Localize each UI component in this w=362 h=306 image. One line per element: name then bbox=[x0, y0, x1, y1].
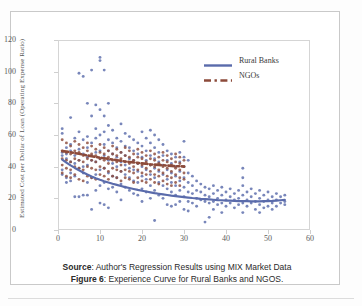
scatter-point bbox=[178, 179, 181, 182]
scatter-point bbox=[229, 195, 232, 198]
scatter-point bbox=[141, 179, 144, 182]
scatter-point bbox=[115, 165, 118, 168]
scatter-point bbox=[166, 203, 169, 206]
scatter-point bbox=[94, 137, 97, 140]
scatter-point bbox=[78, 159, 81, 162]
scatter-point bbox=[183, 156, 186, 159]
scatter-point bbox=[73, 137, 76, 140]
scatter-point bbox=[82, 194, 85, 197]
scatter-point bbox=[212, 208, 215, 211]
y-tick-mark bbox=[54, 167, 58, 168]
y-tick-label: 100 bbox=[0, 67, 16, 76]
scatter-point bbox=[166, 183, 169, 186]
scatter-point bbox=[195, 179, 198, 182]
y-tick-label: 0 bbox=[0, 225, 16, 234]
x-tick-label: 50 bbox=[253, 234, 283, 243]
scatter-point bbox=[187, 200, 190, 203]
scatter-point bbox=[283, 203, 286, 206]
scatter-point bbox=[170, 153, 173, 156]
scatter-point bbox=[128, 146, 131, 149]
scatter-point bbox=[271, 202, 274, 205]
scatter-point bbox=[120, 179, 123, 182]
scatter-point bbox=[124, 173, 127, 176]
scatter-point bbox=[187, 172, 190, 175]
x-tick-mark bbox=[310, 230, 311, 234]
scatter-point bbox=[174, 181, 177, 184]
scatter-point bbox=[69, 172, 72, 175]
scatter-point bbox=[111, 167, 114, 170]
scatter-point bbox=[267, 205, 270, 208]
caption-source-text: : Author's Regression Results using MIX … bbox=[91, 262, 291, 272]
scatter-point bbox=[246, 205, 249, 208]
x-tick-mark bbox=[142, 230, 143, 234]
scatter-point bbox=[61, 164, 64, 167]
scatter-point bbox=[250, 187, 253, 190]
scatter-point bbox=[86, 165, 89, 168]
scatter-point bbox=[78, 130, 81, 133]
scatter-point bbox=[149, 173, 152, 176]
scatter-point bbox=[187, 191, 190, 194]
scatter-point bbox=[178, 156, 181, 159]
scatter-point bbox=[99, 134, 102, 137]
scatter-point bbox=[241, 194, 244, 197]
scatter-point bbox=[61, 154, 64, 157]
scatter-point bbox=[183, 172, 186, 175]
scatter-point bbox=[128, 170, 131, 173]
scatter-point bbox=[132, 181, 135, 184]
scatter-point bbox=[183, 140, 186, 143]
scatter-point bbox=[254, 208, 257, 211]
scatter-point bbox=[178, 184, 181, 187]
scatter-point bbox=[208, 187, 211, 190]
legend-item-rural-banks: Rural Banks bbox=[204, 54, 314, 66]
scatter-point bbox=[170, 170, 173, 173]
caption-figure-text: : Experience Curve for Rural Banks and N… bbox=[104, 274, 284, 284]
scatter-point bbox=[99, 56, 102, 59]
scatter-point bbox=[107, 102, 110, 105]
scatter-point bbox=[162, 197, 165, 200]
scatter-point bbox=[94, 189, 97, 192]
scatter-point bbox=[141, 157, 144, 160]
scatter-point bbox=[153, 173, 156, 176]
scatter-point bbox=[73, 195, 76, 198]
scatter-point bbox=[78, 178, 81, 181]
scatter-point bbox=[204, 186, 207, 189]
scatter-point bbox=[262, 194, 265, 197]
scatter-point bbox=[149, 184, 152, 187]
scatter-point bbox=[124, 168, 127, 171]
scatter-point bbox=[279, 195, 282, 198]
scatter-point bbox=[65, 167, 68, 170]
scatter-point bbox=[174, 156, 177, 159]
scatter-point bbox=[166, 178, 169, 181]
scatter-point bbox=[111, 186, 114, 189]
scatter-point bbox=[124, 154, 127, 157]
scatter-point bbox=[132, 138, 135, 141]
scatter-point bbox=[166, 167, 169, 170]
scatter-point bbox=[216, 203, 219, 206]
x-tick-mark bbox=[184, 230, 185, 234]
scatter-point bbox=[69, 145, 72, 148]
scatter-point bbox=[69, 168, 72, 171]
scatter-point bbox=[204, 221, 207, 224]
scatter-point bbox=[170, 157, 173, 160]
scatter-point bbox=[162, 143, 165, 146]
scatter-point bbox=[103, 115, 106, 118]
scatter-point bbox=[250, 195, 253, 198]
y-tick-label: 20 bbox=[0, 193, 16, 202]
scatter-point bbox=[61, 127, 64, 130]
scatter-point bbox=[183, 178, 186, 181]
scatter-point bbox=[86, 141, 89, 144]
scatter-point bbox=[166, 154, 169, 157]
y-tick-label: 60 bbox=[0, 130, 16, 139]
scatter-point bbox=[258, 211, 261, 214]
scatter-point bbox=[111, 145, 114, 148]
scatter-point bbox=[94, 151, 97, 154]
scatter-point bbox=[120, 198, 123, 201]
scatter-point bbox=[149, 178, 152, 181]
scatter-point bbox=[61, 168, 64, 171]
scatter-point bbox=[86, 135, 89, 138]
scatter-point bbox=[237, 197, 240, 200]
y-tick-mark bbox=[54, 72, 58, 73]
scatter-point bbox=[86, 146, 89, 149]
scatter-point bbox=[103, 167, 106, 170]
scatter-point bbox=[178, 151, 181, 154]
